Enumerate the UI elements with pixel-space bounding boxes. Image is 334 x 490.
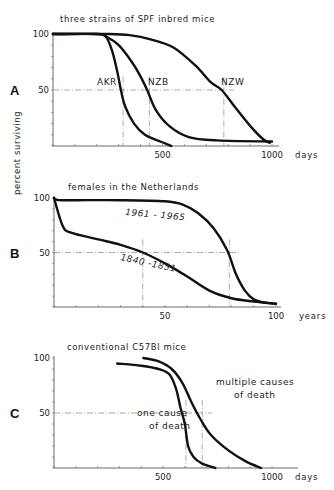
panel-letter: B — [10, 246, 19, 261]
panel-title: three strains of SPF inbred mice — [60, 14, 215, 24]
y-axis-label: percent surviving — [12, 111, 22, 195]
curve-label-line2: of death — [234, 390, 276, 400]
y-tick-label-50: 50 — [38, 85, 49, 95]
x-tick-label: 500 — [154, 150, 170, 160]
curve-label: 1961 - 1965 — [125, 207, 186, 222]
curve-label: NZW — [221, 77, 244, 87]
panel-letter: C — [10, 406, 20, 421]
panel-title: females in the Netherlands — [68, 182, 199, 192]
curve-label: AKR — [97, 77, 117, 87]
curve-label: NZB — [148, 77, 169, 87]
x-tick-label: 50 — [160, 311, 171, 321]
x-unit-label: days — [295, 150, 318, 160]
y-tick-label-50: 50 — [39, 248, 50, 258]
panel-letter: A — [10, 83, 20, 98]
curve-label: one cause — [137, 408, 188, 418]
survival-curve — [53, 34, 272, 142]
x-unit-label: days — [295, 472, 318, 482]
survival-curve — [53, 34, 270, 143]
curve-label: multiple causes — [216, 377, 294, 387]
x-tick-label: 1000 — [261, 472, 283, 482]
x-tick-label: 100 — [268, 311, 284, 321]
y-tick-label-100: 100 — [34, 353, 50, 363]
x-unit-label: years — [299, 311, 326, 321]
x-tick-label: 1000 — [261, 150, 283, 160]
x-tick-label: 500 — [155, 472, 171, 482]
panel-title: conventional C57Bl mice — [67, 342, 186, 352]
survival-curves-figure: 100505001000daysthree strains of SPF inb… — [0, 0, 334, 490]
y-tick-label-50: 50 — [39, 408, 50, 418]
y-tick-label-100: 100 — [34, 193, 50, 203]
y-tick-label-100: 100 — [33, 29, 49, 39]
curve-label-line2: of death — [149, 421, 191, 431]
